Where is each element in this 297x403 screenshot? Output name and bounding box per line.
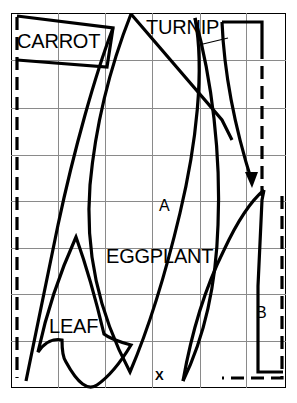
diagram-vector-layer — [0, 0, 297, 403]
dashed-right-lower-boundary — [222, 196, 282, 378]
label-point-x: X — [155, 369, 164, 382]
turnip-callout-box — [222, 22, 262, 46]
diagram-canvas: CARROT TURNIP EGGPLANT A B X LEAF — [0, 0, 297, 403]
label-turnip: TURNIP — [146, 17, 219, 37]
region-b-boundary — [258, 190, 283, 372]
label-leaf: LEAF — [49, 316, 98, 336]
label-region-b: B — [256, 305, 267, 321]
label-carrot: CARROT — [17, 31, 100, 51]
turnip-right-curve — [222, 22, 252, 182]
label-region-a: A — [159, 198, 170, 214]
label-eggplant: EGGPLANT — [106, 246, 213, 266]
